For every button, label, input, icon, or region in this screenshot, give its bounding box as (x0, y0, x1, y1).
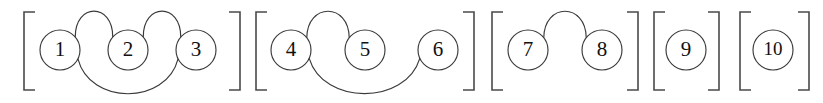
node-1-label: 1 (55, 37, 66, 61)
block-3-right-bracket-icon (627, 12, 638, 90)
block-2-right-bracket-icon (463, 12, 474, 90)
block-3-left-bracket-icon (492, 12, 503, 90)
block-5-left-bracket-icon (740, 12, 751, 90)
block-5: 10 (740, 12, 809, 90)
block-3: 78 (492, 11, 638, 90)
block-4: 9 (654, 12, 719, 90)
node-10[interactable]: 10 (753, 30, 793, 70)
node-10-label: 10 (764, 38, 783, 59)
node-2[interactable]: 2 (108, 30, 148, 70)
node-7-label: 7 (523, 37, 534, 61)
arc-2-3 (143, 11, 180, 37)
node-3[interactable]: 3 (176, 30, 216, 70)
block-arc-diagram: 12345678910 (0, 0, 823, 103)
node-5[interactable]: 5 (345, 30, 385, 70)
node-9-label: 9 (681, 37, 692, 61)
block-2-left-bracket-icon (256, 12, 267, 90)
block-4-left-bracket-icon (654, 12, 665, 90)
node-5-label: 5 (360, 37, 371, 61)
block-4-right-bracket-icon (708, 12, 719, 90)
block-1: 123 (24, 11, 240, 94)
node-2-label: 2 (123, 37, 134, 61)
node-6-label: 6 (433, 37, 444, 61)
blocks-layer: 12345678910 (24, 11, 809, 94)
node-4[interactable]: 4 (271, 30, 311, 70)
block-1-left-bracket-icon (24, 12, 35, 90)
node-4-label: 4 (286, 37, 297, 61)
node-3-label: 3 (191, 37, 202, 61)
node-6[interactable]: 6 (418, 30, 458, 70)
block-1-right-bracket-icon (229, 12, 240, 90)
diagram-canvas: 12345678910 (0, 0, 823, 103)
block-2: 456 (256, 11, 474, 93)
arc-7-8 (544, 11, 586, 37)
node-9[interactable]: 9 (666, 30, 706, 70)
arc-1-2 (75, 11, 112, 37)
node-8[interactable]: 8 (582, 30, 622, 70)
arc-4-5 (307, 11, 349, 37)
node-8-label: 8 (597, 37, 608, 61)
node-1[interactable]: 1 (40, 30, 80, 70)
node-7[interactable]: 7 (508, 30, 548, 70)
block-5-right-bracket-icon (798, 12, 809, 90)
